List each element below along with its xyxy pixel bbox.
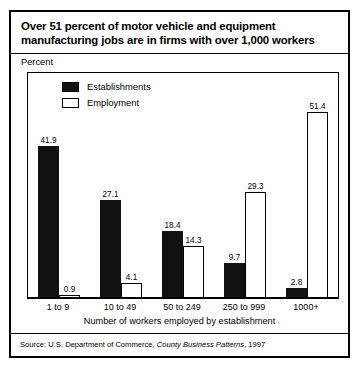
y-axis-label: Percent [21, 57, 53, 67]
x-tick-label-1-to-9: 1 to 9 [27, 302, 89, 312]
bars-layer: 41.90.927.14.118.414.39.729.32.851.4 [28, 72, 338, 298]
chart-title-line-2: manufacturing jobs are in firms with ove… [21, 33, 338, 47]
source-divider [11, 333, 348, 334]
bar-value-label: 27.1 [96, 190, 125, 199]
chart-title-line-1: Over 51 percent of motor vehicle and equ… [21, 19, 338, 33]
x-tick-label-50-to-249: 50 to 249 [151, 302, 213, 312]
x-tick-label-10-to-49: 10 to 49 [89, 302, 151, 312]
bar-employment-10-to-49 [121, 283, 142, 298]
bar-employment-250-to-999 [245, 192, 266, 298]
bar-value-label: 14.3 [179, 236, 208, 245]
x-axis-baseline [28, 297, 338, 298]
source-note: Source: U.S. Department of Commerce, Cou… [20, 340, 265, 349]
plot-area: Establishments Employment 41.90.927.14.1… [27, 72, 339, 299]
bar-value-label: 18.4 [158, 221, 187, 230]
bar-establishments-10-to-49 [100, 200, 121, 298]
bar-value-label: 4.1 [117, 273, 146, 282]
bar-value-label: 41.9 [34, 136, 63, 145]
source-prefix: Source: U.S. Department of Commerce, [20, 340, 157, 349]
x-axis-title: Number of workers employed by establishm… [11, 316, 348, 326]
bar-establishments-1-to-9 [38, 146, 59, 298]
bar-value-label: 0.9 [55, 285, 84, 294]
bar-value-label: 29.3 [241, 182, 270, 191]
bar-value-label: 51.4 [303, 102, 332, 111]
chart-title-block: Over 51 percent of motor vehicle and equ… [11, 12, 348, 54]
source-suffix: , 1997 [244, 340, 265, 349]
x-axis-tick-labels: 1 to 910 to 4950 to 249250 to 9991000+ [27, 302, 339, 315]
bar-establishments-250-to-999 [224, 263, 245, 298]
figure-container: Over 51 percent of motor vehicle and equ… [9, 10, 350, 358]
source-publication: County Business Patterns [157, 340, 244, 349]
x-tick-label-250-to-999: 250 to 999 [213, 302, 275, 312]
bar-employment-50-to-249 [183, 246, 204, 298]
x-tick-label-1000+: 1000+ [275, 302, 337, 312]
bar-employment-1000+ [307, 112, 328, 298]
